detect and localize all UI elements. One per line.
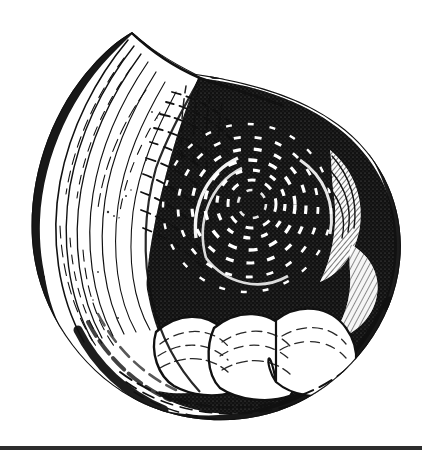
engraving-plate: coiled gastropod shell [0, 0, 422, 455]
shell-figure [0, 0, 422, 455]
bottom-horizontal-rule [0, 446, 422, 450]
